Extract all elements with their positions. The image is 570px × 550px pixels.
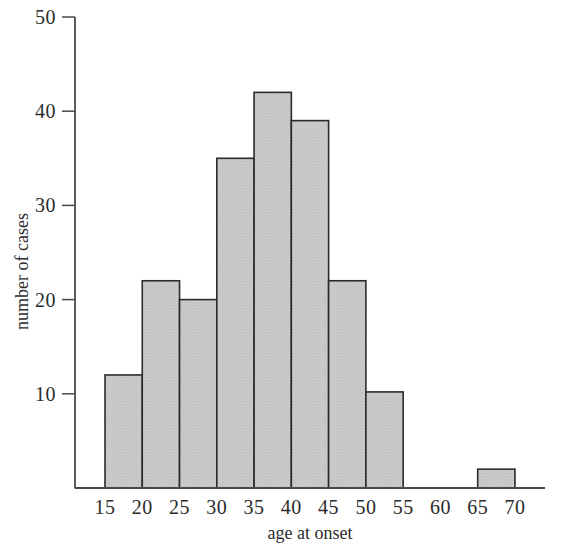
y-axis-title: number of cases — [12, 213, 33, 330]
y-axis-tick-label: 50 — [12, 6, 56, 29]
x-axis-title: age at onset — [268, 523, 353, 544]
x-axis-tick-label: 60 — [430, 496, 451, 519]
x-axis-tick-label: 35 — [244, 496, 265, 519]
histogram-bar — [291, 121, 328, 488]
x-axis-tick-label: 25 — [169, 496, 190, 519]
x-axis-tick-label: 70 — [504, 496, 525, 519]
x-axis-tick-label: 40 — [281, 496, 302, 519]
x-axis-tick-label: 45 — [318, 496, 339, 519]
x-axis-tick-label: 50 — [355, 496, 376, 519]
y-axis-tick-label: 10 — [12, 382, 56, 405]
histogram-bar — [217, 158, 254, 488]
y-axis-tick-label: 40 — [12, 100, 56, 123]
bars-group — [105, 92, 515, 488]
histogram-bar — [180, 300, 217, 488]
histogram-bar — [105, 375, 142, 488]
x-axis-tick-label: 30 — [206, 496, 227, 519]
x-axis-tick-label: 20 — [132, 496, 153, 519]
histogram-plot — [0, 0, 570, 550]
x-axis-tick-label: 15 — [95, 496, 116, 519]
histogram-bar — [366, 392, 403, 488]
histogram-figure: 1020304050 152025303540455055606570 age … — [0, 0, 570, 550]
x-axis-tick-label: 65 — [467, 496, 488, 519]
histogram-bar — [478, 469, 515, 488]
histogram-bar — [254, 92, 291, 488]
histogram-bar — [142, 281, 179, 488]
histogram-bar — [329, 281, 366, 488]
x-axis-tick-label: 55 — [393, 496, 414, 519]
